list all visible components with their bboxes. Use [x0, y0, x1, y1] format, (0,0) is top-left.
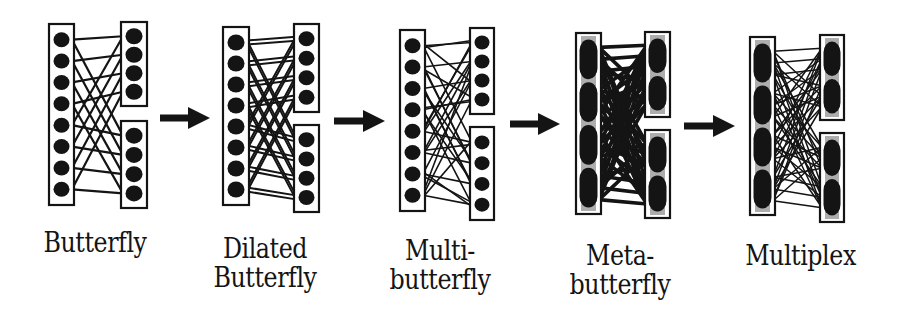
node-dot	[475, 177, 490, 191]
left-column	[576, 33, 601, 214]
node-dot	[299, 70, 315, 85]
node-dot	[475, 55, 490, 69]
node-dot	[475, 156, 490, 170]
stage-label-metabutterfly: Meta- butterfly	[550, 241, 691, 299]
metanode-fill	[650, 35, 665, 114]
stage-multibutterfly	[400, 28, 494, 220]
edges	[773, 48, 822, 208]
right-block-1	[820, 133, 844, 222]
label-line: butterfly	[365, 265, 515, 294]
stage-label-multibutterfly: Multi- butterfly	[365, 236, 515, 294]
node-dot	[54, 32, 70, 47]
node-dot	[126, 84, 143, 100]
left-column	[750, 37, 775, 215]
right-block-0	[121, 22, 147, 106]
node-dot	[475, 135, 490, 149]
stage-butterfly	[49, 22, 147, 208]
node-dot	[228, 119, 245, 135]
node-dot	[405, 81, 421, 96]
arrow-right-icon	[160, 107, 210, 129]
stage-label-dilated-butterfly: Dilated Butterfly	[195, 234, 336, 292]
left-column	[400, 30, 425, 211]
node-dot	[228, 140, 245, 156]
node-dot	[228, 161, 245, 177]
node-dot	[54, 75, 70, 90]
node-dot	[405, 102, 421, 117]
edges	[599, 45, 647, 204]
node-dot	[405, 38, 421, 53]
node-dot	[126, 185, 143, 201]
metanode-fill	[755, 40, 770, 212]
edges	[423, 41, 472, 207]
node-dot	[299, 171, 315, 186]
column-box	[49, 24, 74, 205]
node-dot	[54, 118, 70, 133]
node-dot	[299, 90, 315, 105]
node-dot	[475, 93, 490, 107]
edges	[72, 36, 123, 193]
metanode-fill	[650, 133, 665, 215]
arrow-right-icon	[684, 115, 735, 137]
label-line: Multiplex	[728, 241, 873, 270]
stage-multiplex	[750, 35, 844, 222]
node-dot	[126, 47, 143, 63]
right-block-0	[820, 35, 844, 120]
right-block-1	[121, 121, 147, 208]
node-dot	[228, 77, 245, 93]
right-block-1	[645, 130, 670, 218]
node-dot	[54, 160, 70, 175]
label-line: butterfly	[550, 270, 691, 299]
node-dot	[299, 132, 315, 147]
arrow-right-icon	[334, 110, 385, 132]
node-dot	[299, 151, 315, 166]
stage-metabutterfly	[576, 32, 670, 218]
node-dot	[126, 147, 143, 163]
left-column	[223, 27, 249, 205]
right-block-0	[470, 28, 494, 114]
label-line: Dilated	[195, 234, 336, 263]
node-dot	[126, 166, 143, 182]
node-dot	[54, 96, 70, 111]
node-dot	[475, 198, 490, 212]
stage-dilated-butterfly	[223, 24, 319, 212]
node-dot	[299, 190, 315, 205]
metanode-fill	[825, 38, 839, 117]
node-dot	[228, 56, 245, 72]
right-block-1	[294, 125, 319, 212]
node-dot	[299, 31, 315, 46]
node-dot	[126, 128, 143, 144]
node-dot	[405, 188, 421, 203]
stage-label-butterfly: Butterfly	[20, 228, 170, 257]
right-block-1	[470, 127, 494, 220]
right-block-0	[645, 32, 670, 117]
node-dot	[299, 51, 315, 66]
column-box	[400, 30, 425, 211]
label-line: Meta-	[550, 241, 691, 270]
node-dot	[405, 166, 421, 181]
node-dot	[54, 54, 70, 69]
node-dot	[405, 124, 421, 139]
edges	[247, 37, 296, 200]
column-box	[223, 27, 249, 205]
node-dot	[54, 139, 70, 154]
arrow-right-icon	[510, 113, 560, 135]
label-line: Multi-	[365, 236, 515, 265]
left-column	[49, 24, 74, 205]
metanode-fill	[581, 36, 596, 211]
stage-label-multiplex: Multiplex	[728, 241, 873, 270]
node-dot	[475, 36, 490, 50]
node-dot	[126, 65, 143, 81]
node-dot	[475, 74, 490, 88]
node-dot	[54, 182, 70, 197]
metanode-fill	[825, 136, 839, 219]
label-line: Butterfly	[20, 228, 170, 257]
node-dot	[228, 35, 245, 51]
node-dot	[228, 98, 245, 114]
node-dot	[405, 145, 421, 160]
right-block-0	[294, 24, 319, 112]
node-dot	[126, 28, 143, 44]
node-dot	[228, 182, 245, 198]
label-line: Butterfly	[195, 263, 336, 292]
node-dot	[405, 60, 421, 75]
